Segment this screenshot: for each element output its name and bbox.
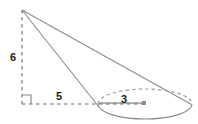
base-offset-label: 5: [56, 90, 62, 102]
center-dot: [142, 101, 146, 105]
height-label: 6: [10, 51, 16, 63]
right-angle-marker: [22, 95, 31, 104]
base-circle-front-arc: [98, 104, 192, 119]
cone-slant-edges: [22, 10, 192, 107]
radius-label: 3: [121, 93, 127, 105]
geometry-figure: 6 5 3: [0, 0, 198, 124]
figure-canvas: 6 5 3: [0, 0, 198, 124]
